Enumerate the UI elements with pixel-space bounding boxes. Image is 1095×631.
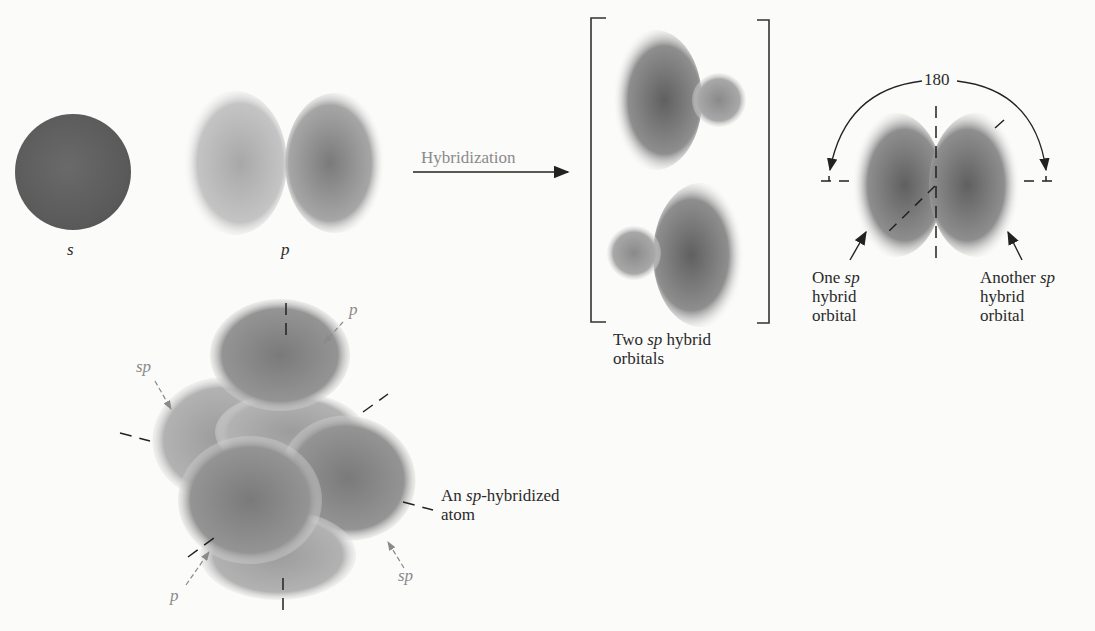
sp-hybridized-atom <box>139 299 430 600</box>
s-orbital <box>15 114 131 230</box>
hybridization-label: Hybridization <box>421 148 515 167</box>
one-sp-hybrid-orbital-label: One sp hybrid orbital <box>812 268 860 325</box>
sp-hybrid-orbitals-pair <box>607 30 749 327</box>
atom-p-top-label: p <box>349 300 358 319</box>
sp-hybridized-atom-label: An sp-hybridized atom <box>441 486 560 524</box>
atom-p-bottom-label: p <box>170 586 179 605</box>
diagram-canvas <box>0 0 1095 631</box>
another-sp-hybrid-orbital-label: Another sp hybrid orbital <box>980 268 1055 325</box>
s-label: s <box>67 240 74 259</box>
two-sp-hybrid-orbitals-caption: Two sp hybrid orbitals <box>613 330 711 368</box>
p-orbital <box>183 91 385 235</box>
atom-sp-left-label: sp <box>136 357 151 376</box>
p-label: p <box>281 240 290 259</box>
atom-sp-right-label: sp <box>398 566 413 585</box>
angle-value: 180 <box>922 70 952 89</box>
